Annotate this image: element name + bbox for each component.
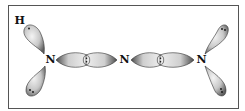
atom-label-n2: N (120, 53, 130, 66)
atom-label-h: H (15, 14, 25, 27)
bond-n1-n2 (56, 53, 117, 68)
lone-pair-lobe-n3-upper (205, 25, 228, 54)
atom-label-n3: N (197, 53, 207, 66)
lone-pair-lobe-n3-lower (205, 66, 226, 96)
lone-pair-lobe-n1-lower (26, 66, 45, 96)
atom-label-n1: N (46, 53, 56, 66)
bond-n2-n3 (131, 53, 194, 68)
orbital-diagram: H N N N (0, 0, 245, 111)
lone-pair-lobe-n1-upper (24, 25, 45, 54)
